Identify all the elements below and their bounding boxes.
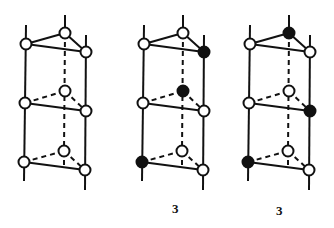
open-node-top-left [21,39,32,50]
open-node-mid-back [60,86,71,97]
open-node-mid-right [199,106,210,117]
bot-edge-left-right [248,162,309,170]
mid-edge-left-right [143,103,204,111]
open-node-mid-left [244,98,255,109]
bot-edge-left-right [24,162,85,170]
mid-edge-left-right [25,103,86,111]
filled-node-mid-back [178,86,189,97]
filled-node-bot-left [243,157,254,168]
filled-node-top-back [284,28,295,39]
bot-edge-left-right [142,162,203,170]
panel-1 [19,15,92,190]
open-node-bot-back [59,146,70,157]
open-node-bot-back [177,146,188,157]
open-node-top-right [81,47,92,58]
open-node-top-back [178,28,189,39]
open-node-bot-right [80,165,91,176]
open-node-mid-back [284,86,295,97]
panel-2-label: 3 [172,201,179,217]
filled-node-top-right [199,47,210,58]
mid-edge-left-right [249,103,310,111]
open-node-mid-left [20,98,31,109]
open-node-top-right [305,47,316,58]
filled-node-bot-left [137,157,148,168]
open-node-mid-right [81,106,92,117]
open-node-mid-left [138,98,149,109]
panel-2 [137,15,210,190]
panel-3 [243,15,316,190]
open-node-top-back [60,28,71,39]
open-node-bot-back [283,146,294,157]
diagram-canvas [0,0,334,228]
open-node-bot-right [198,165,209,176]
panel-3-label: 3 [276,203,283,219]
open-node-top-left [139,39,150,50]
open-node-bot-left [19,157,30,168]
filled-node-mid-right [305,106,316,117]
open-node-top-left [245,39,256,50]
open-node-bot-right [304,165,315,176]
